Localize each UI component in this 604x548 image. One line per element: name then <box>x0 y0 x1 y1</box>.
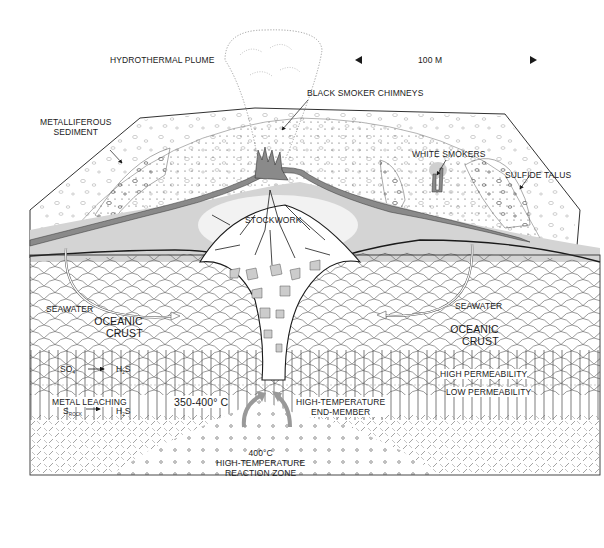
label-oceanic-crust-right: OCEANIC CRUST <box>436 323 499 347</box>
label-metalliferous-sediment: METALLIFEROUS SEDIMENT <box>40 117 112 137</box>
scale-bar-label: 100 M <box>418 55 442 65</box>
label-temperature-range: 350-400° C <box>174 396 228 408</box>
label-hydrothermal-plume: HYDROTHERMAL PLUME <box>110 55 214 65</box>
label-low-permeability: LOW PERMEABILITY <box>446 387 531 397</box>
label-stockwork: STOCKWORK <box>245 215 301 225</box>
label-high-permeability: HIGH PERMEABILITY <box>440 369 527 379</box>
label-seawater-right: SEAWATER <box>455 301 502 311</box>
label-sulfide-talus: SULFIDE TALUS <box>505 170 571 180</box>
label-s-rock: SROCK <box>63 406 82 420</box>
label-seawater-left: SEAWATER <box>46 304 93 314</box>
label-oceanic-crust-left: OCEANIC CRUST <box>80 315 143 339</box>
label-reaction-zone: 400°C HIGH-TEMPERATURE REACTION ZONE <box>216 448 305 478</box>
label-so4: SO4 <box>60 364 75 378</box>
label-h2s-upper: H2S <box>116 364 131 378</box>
label-white-smokers: WHITE SMOKERS <box>412 149 486 159</box>
label-black-smoker-chimneys: BLACK SMOKER CHIMNEYS <box>307 88 423 98</box>
label-h2s-lower: H2S <box>116 406 131 420</box>
label-high-temperature-end-member: HIGH-TEMPERATURE END-MEMBER <box>296 397 385 417</box>
